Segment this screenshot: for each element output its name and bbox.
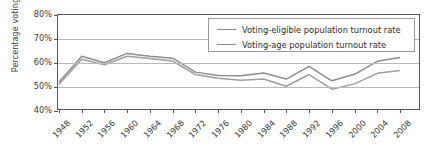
legend-item: Voting-age population turnout rate (213, 37, 414, 52)
legend-label: Voting-eligible population turnout rate (242, 25, 401, 35)
gridline (58, 87, 419, 88)
y-axis-tick (54, 15, 58, 16)
y-axis-tick (54, 87, 58, 88)
y-axis-tick-label: 60% (24, 58, 52, 66)
legend-item: Voting-eligible population turnout rate (213, 22, 414, 37)
legend-line-icon (217, 44, 236, 45)
gridline (58, 63, 419, 64)
chart-legend: Voting-eligible population turnout rate … (208, 18, 415, 52)
y-axis-tick-label: 80% (24, 10, 52, 18)
y-axis-tick (54, 39, 58, 40)
y-axis-tick-label: 50% (24, 82, 52, 90)
chart-container: Percentage voting 80%70%60%50%40% 194819… (0, 0, 438, 161)
y-axis-tick-label: 70% (24, 34, 52, 42)
y-axis-tick (54, 63, 58, 64)
x-axis-tick-labels: 1948195219561960196419681972197619801984… (57, 112, 420, 161)
series-line (59, 53, 400, 82)
legend-label: Voting-age population turnout rate (242, 40, 386, 50)
y-axis-tick-label: 40% (24, 106, 52, 114)
legend-line-icon (217, 29, 236, 30)
